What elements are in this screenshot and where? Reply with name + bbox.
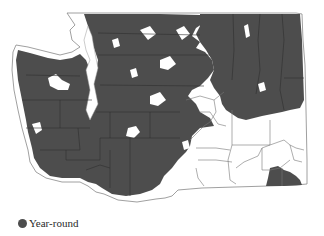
legend-label-year-round: Year-round bbox=[29, 218, 78, 229]
washington-map bbox=[0, 0, 324, 236]
legend-swatch-year-round bbox=[18, 219, 27, 228]
legend: Year-round bbox=[18, 218, 78, 229]
